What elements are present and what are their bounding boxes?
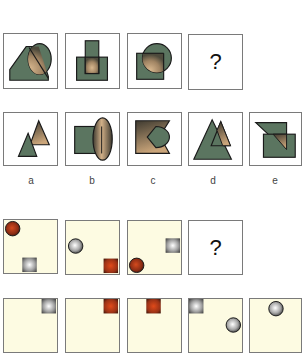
- puzzle2-answer-c[interactable]: [127, 298, 182, 353]
- puzzle2-answer-d[interactable]: [188, 298, 243, 353]
- puzzle1-question-4: ?: [188, 34, 243, 90]
- puzzle2-answer-e[interactable]: [249, 298, 302, 353]
- puzzle1-answer-c[interactable]: [127, 112, 182, 166]
- puzzle1-answer-d[interactable]: [188, 112, 243, 166]
- cube-icon: [66, 299, 119, 352]
- ball-and-cube-icon: [66, 221, 119, 274]
- cube-icon: [128, 299, 181, 352]
- ball-and-cube-icon: [4, 220, 57, 273]
- puzzle1-question-1: [3, 33, 58, 89]
- puzzle2-answer-a[interactable]: [3, 298, 58, 353]
- puzzle1-answer-a[interactable]: [3, 112, 58, 166]
- puzzle2-question-2: [65, 220, 120, 275]
- puzzle1-question-2: [65, 33, 120, 89]
- puzzle2-question-1: [3, 219, 58, 274]
- question-mark: ?: [189, 35, 242, 89]
- question-mark: ?: [189, 221, 242, 274]
- puzzle2-question-3: [127, 220, 182, 275]
- square-and-circle-icon: [128, 34, 181, 88]
- two-triangles-overlap-icon: [189, 113, 242, 165]
- rectangle-and-ellipse-icon: [66, 113, 119, 165]
- puzzle2-question-4: ?: [188, 220, 243, 275]
- house-and-ellipse-icon: [4, 34, 57, 88]
- two-triangles-icon: [4, 113, 57, 165]
- puzzle1-answer-e[interactable]: [249, 112, 302, 166]
- option-label-d: d: [203, 175, 223, 186]
- puzzle1-question-3: [127, 33, 182, 89]
- option-label-b: b: [82, 175, 102, 186]
- puzzle1-answer-b[interactable]: [65, 112, 120, 166]
- cube-icon: [4, 299, 57, 352]
- cross-rectangles-icon: [66, 34, 119, 88]
- triangle-and-rectangle-icon: [250, 113, 301, 165]
- option-label-a: a: [21, 175, 41, 186]
- ball-and-cube-icon: [128, 221, 181, 274]
- puzzle2-answer-b[interactable]: [65, 298, 120, 353]
- option-label-c: c: [143, 175, 163, 186]
- ball-icon: [250, 299, 301, 352]
- option-label-e: e: [265, 175, 285, 186]
- notched-rectangle-and-pacman-icon: [128, 113, 181, 165]
- ball-and-cube-icon: [189, 299, 242, 352]
